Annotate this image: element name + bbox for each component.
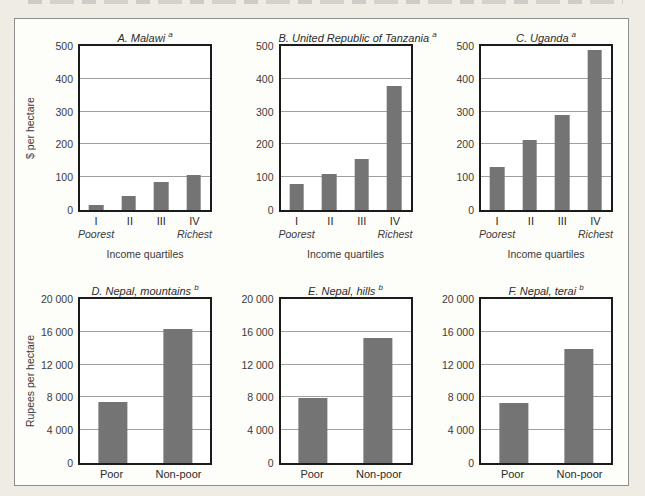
y-tick-label: 8 000 xyxy=(448,391,474,403)
chart-body: 0100200300400500 xyxy=(424,44,620,212)
y-tick-label: 12 000 xyxy=(442,359,474,371)
chart-title: C. Uganda a xyxy=(479,27,613,44)
chart-title: B. United Republic of Tanzania a xyxy=(279,27,413,44)
x-tick-sub-label: Poorest xyxy=(479,228,515,241)
footnote-mark: a xyxy=(168,30,172,39)
x-tick: IVRichest xyxy=(177,212,212,241)
gridline xyxy=(80,143,210,144)
y-tick-label: 500 xyxy=(55,40,73,52)
y-axis-title xyxy=(224,297,237,465)
chart-title-text: C. Uganda xyxy=(516,32,569,44)
bar-iii xyxy=(555,115,570,210)
y-axis-ticks: 04 0008 00012 00016 00020 000 xyxy=(36,299,78,463)
plot-area xyxy=(78,44,212,212)
chart-body: $ per hectare 0100200300400500 xyxy=(23,44,219,212)
x-tick-sub-label: Poorest xyxy=(78,228,114,241)
y-axis-ticks: 0100200300400500 xyxy=(437,46,479,210)
y-axis-title xyxy=(224,44,237,212)
x-tick: IPoorest xyxy=(279,212,315,241)
chart-title: A. Malawi a xyxy=(78,27,212,44)
x-tick-label: I xyxy=(279,214,315,228)
x-tick-label: Poor xyxy=(479,467,546,481)
y-tick-label: 100 xyxy=(256,171,274,183)
x-tick: Poor xyxy=(279,465,346,481)
y-axis-title xyxy=(424,44,437,212)
x-tick-label: I xyxy=(78,214,114,228)
x-axis-title: Income quartiles xyxy=(78,248,212,262)
y-tick-label: 200 xyxy=(55,138,73,150)
bar-ii xyxy=(522,140,537,210)
x-tick: IPoorest xyxy=(78,212,114,241)
x-axis-ticks: IPoorestIIIIIIVRichest xyxy=(279,212,413,241)
x-tick-label: II xyxy=(114,214,145,228)
bar-ii xyxy=(322,174,337,210)
bar-poor xyxy=(298,398,327,463)
x-tick: II xyxy=(515,212,546,241)
x-tick: Poor xyxy=(479,465,546,481)
bar-iv xyxy=(186,175,201,210)
chart-title: F. Nepal, terai b xyxy=(479,280,613,297)
x-tick-label: IV xyxy=(177,214,212,228)
y-axis-title: Rupees per hectare xyxy=(23,297,36,465)
x-tick-label: III xyxy=(146,214,177,228)
x-tick-label: IV xyxy=(378,214,413,228)
bar-non-poor xyxy=(163,329,192,463)
footnote-mark: a xyxy=(572,30,576,39)
y-tick-label: 12 000 xyxy=(41,359,73,371)
bar-iv xyxy=(587,50,602,210)
y-tick-label: 12 000 xyxy=(241,359,273,371)
x-tick: IVRichest xyxy=(378,212,413,241)
gridline xyxy=(281,331,411,332)
x-tick-sub-label: Poorest xyxy=(279,228,315,241)
plot-area xyxy=(78,297,212,465)
chart-body: 0100200300400500 xyxy=(224,44,420,212)
x-tick-label: Non-poor xyxy=(145,467,212,481)
x-axis-ticks: PoorNon-poor xyxy=(279,465,413,481)
chart-title: E. Nepal, hills b xyxy=(279,280,413,297)
page: { "page": { "background": "#efece4", "pa… xyxy=(0,0,645,496)
bar-poor xyxy=(499,403,528,463)
chart-nepal-hills: E. Nepal, hills b 04 0008 00012 00016 00… xyxy=(224,280,420,481)
chart-title-text: E. Nepal, hills xyxy=(308,285,375,297)
bar-iii xyxy=(154,182,169,210)
y-tick-label: 100 xyxy=(55,171,73,183)
x-tick: Non-poor xyxy=(546,465,613,481)
chart-title-text: A. Malawi xyxy=(117,32,165,44)
bar-iv xyxy=(387,86,402,210)
charts-row-bottom: D. Nepal, mountains b Rupees per hectare… xyxy=(23,280,620,481)
gridline xyxy=(80,111,210,112)
y-axis-title xyxy=(424,297,437,465)
y-tick-label: 8 000 xyxy=(47,391,73,403)
y-tick-label: 200 xyxy=(256,138,274,150)
chart-nepal-mountains: D. Nepal, mountains b Rupees per hectare… xyxy=(23,280,219,481)
x-tick: IVRichest xyxy=(578,212,613,241)
y-tick-label: 0 xyxy=(67,204,73,216)
y-tick-label: 0 xyxy=(468,204,474,216)
x-tick: II xyxy=(315,212,346,241)
x-tick-label: IV xyxy=(578,214,613,228)
y-tick-label: 500 xyxy=(256,40,274,52)
y-tick-label: 16 000 xyxy=(41,326,73,338)
y-tick-label: 4 000 xyxy=(448,424,474,436)
x-tick-label: Poor xyxy=(279,467,346,481)
y-tick-label: 20 000 xyxy=(442,293,474,305)
chart-uganda: C. Uganda a 0100200300400500 IPoorestIII… xyxy=(424,27,620,262)
x-tick: Poor xyxy=(78,465,145,481)
y-tick-label: 4 000 xyxy=(47,424,73,436)
x-tick-label: II xyxy=(515,214,546,228)
y-tick-label: 20 000 xyxy=(241,293,273,305)
x-axis-ticks: IPoorestIIIIIIVRichest xyxy=(78,212,212,241)
chart-title-text: F. Nepal, terai xyxy=(508,285,576,297)
gridline xyxy=(281,78,411,79)
plot-area xyxy=(479,44,613,212)
x-tick: III xyxy=(346,212,377,241)
chart-title-text: B. United Republic of Tanzania xyxy=(279,32,430,44)
y-tick-label: 0 xyxy=(268,204,274,216)
x-tick-label: III xyxy=(346,214,377,228)
chart-nepal-terai: F. Nepal, terai b 04 0008 00012 00016 00… xyxy=(424,280,620,481)
y-tick-label: 0 xyxy=(67,457,73,469)
charts-row-top: A. Malawi a $ per hectare 01002003004005… xyxy=(23,27,620,262)
footnote-mark: b xyxy=(194,283,198,292)
y-axis-ticks: 0100200300400500 xyxy=(237,46,279,210)
chart-body: 04 0008 00012 00016 00020 000 xyxy=(224,297,420,465)
